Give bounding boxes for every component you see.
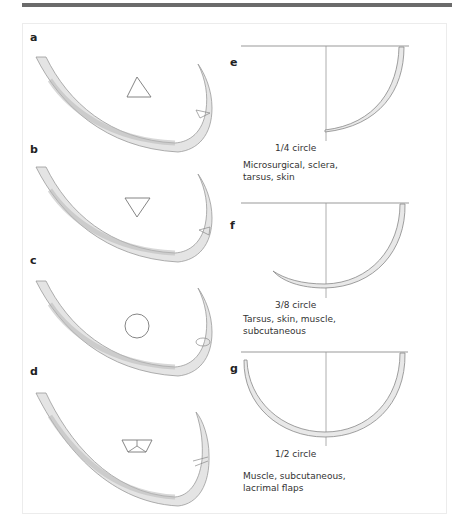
curvature-label-g: 1/2 circle [275, 449, 316, 459]
curvature-diagram-half [0, 0, 452, 532]
uses-caption-g: Muscle, subcutaneous, lacrimal flaps [243, 470, 346, 494]
